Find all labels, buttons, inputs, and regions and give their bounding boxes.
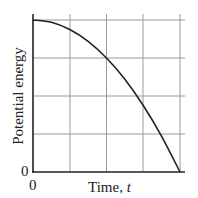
x-axis-label-variable: t bbox=[127, 179, 132, 195]
x-axis-label: Time, t bbox=[88, 179, 132, 195]
chart: 0 0 Time, t Potential energy bbox=[0, 0, 198, 198]
y-zero-tick-label: 0 bbox=[21, 163, 29, 179]
grid bbox=[33, 14, 185, 172]
x-axis-label-text: Time, bbox=[88, 179, 127, 195]
axes bbox=[32, 14, 185, 173]
y-axis-label: Potential energy bbox=[10, 47, 26, 145]
x-zero-tick-label: 0 bbox=[29, 177, 37, 193]
